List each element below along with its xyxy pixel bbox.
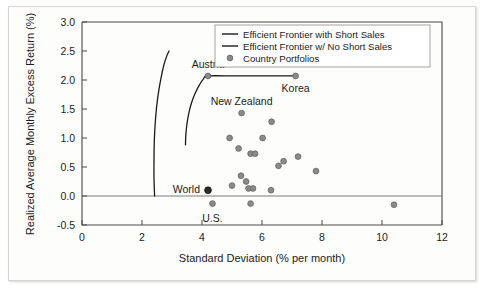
x-tick-label: 8	[319, 231, 325, 243]
scatter-point	[227, 135, 233, 141]
x-tick-label: 0	[79, 231, 85, 243]
scatter-point	[268, 187, 274, 193]
scatter-point	[391, 202, 397, 208]
figure-container: -0.50.00.51.01.52.02.53.0 024681012 Aust…	[0, 0, 492, 293]
scatter-point	[205, 73, 211, 79]
y-tick-label: 1.5	[60, 103, 75, 115]
point-label: U.S.	[202, 212, 222, 224]
scatter-point	[238, 173, 244, 179]
y-tick-label: 3.0	[60, 16, 75, 28]
y-tick-label: -0.5	[57, 219, 75, 231]
y-tick-label: 1.0	[60, 132, 75, 144]
point-annotations: AustriaKoreaNew ZealandWorldU.S.	[173, 58, 310, 224]
legend-label-0: Efficient Frontier with Short Sales	[243, 29, 385, 40]
x-tick-label: 6	[259, 231, 265, 243]
scatter-chart: -0.50.00.51.01.52.02.53.0 024681012 Aust…	[0, 0, 492, 293]
y-tick-label: 2.0	[60, 74, 75, 86]
scatter-point	[210, 201, 216, 207]
point-label: New Zealand	[211, 95, 273, 107]
y-tick-label: 0.0	[60, 190, 75, 202]
x-tick-label: 12	[436, 231, 448, 243]
scatter-point	[243, 179, 249, 185]
scatter-point	[248, 201, 254, 207]
scatter-point	[313, 168, 319, 174]
x-axis-title: Standard Deviation (% per month)	[179, 252, 345, 264]
legend-label-1: Efficient Frontier w/ No Short Sales	[243, 41, 392, 52]
efficient-frontier-short-sales-curve	[154, 51, 169, 196]
scatter-point	[293, 73, 299, 79]
scatter-point	[276, 163, 282, 169]
scatter-point	[269, 119, 275, 125]
scatter-point	[239, 110, 245, 116]
point-label: Korea	[282, 82, 310, 94]
y-tick-label: 2.5	[60, 45, 75, 57]
scatter-point	[295, 154, 301, 160]
scatter-point	[260, 135, 266, 141]
y-axis-title: Realized Average Monthly Excess Return (…	[24, 13, 36, 235]
x-tick-label: 4	[199, 231, 205, 243]
chart-legend: Efficient Frontier with Short Sales Effi…	[215, 25, 430, 67]
scatter-point	[281, 158, 287, 164]
y-tick-label: 0.5	[60, 161, 75, 173]
legend-label-2: Country Portfolios	[243, 53, 319, 64]
x-tick-label: 10	[376, 231, 388, 243]
scatter-point	[229, 183, 235, 189]
point-label: World	[173, 183, 200, 195]
scatter-point	[236, 146, 242, 152]
scatter-point	[252, 151, 258, 157]
scatter-point	[250, 186, 256, 192]
scatter-point	[205, 187, 212, 194]
x-tick-label: 2	[139, 231, 145, 243]
legend-marker-dot	[227, 55, 233, 61]
x-axis-ticks: 024681012	[79, 220, 448, 243]
